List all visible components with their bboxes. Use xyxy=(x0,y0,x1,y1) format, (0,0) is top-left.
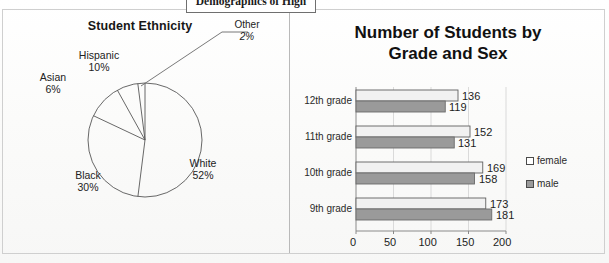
bar-value-10th-male: 158 xyxy=(479,173,497,185)
pie-label-black-pct: 30% xyxy=(77,181,98,193)
bar-value-12th-male: 119 xyxy=(449,101,467,113)
pie-label-black: Black 30% xyxy=(60,169,116,193)
bar-xtick-150: 150 xyxy=(456,236,474,248)
pie-label-white: White 52% xyxy=(177,157,229,181)
bar-category-label-11th: 11th grade xyxy=(290,131,352,142)
pie-label-asian-pct: 6% xyxy=(45,83,60,95)
pie-label-white-name: White xyxy=(177,157,229,169)
bar-category-label-12th: 12th grade xyxy=(290,95,352,106)
pie-label-hispanic: Hispanic 10% xyxy=(68,49,130,73)
pie-label-hispanic-name: Hispanic xyxy=(68,49,130,61)
bar-value-11th-male: 131 xyxy=(458,137,476,149)
legend-label-male: male xyxy=(537,178,559,189)
bar-chart-legend: female male xyxy=(526,155,598,201)
bar-value-9th-male: 181 xyxy=(496,209,514,221)
pie-label-white-pct: 52% xyxy=(192,169,213,181)
figure-page: Demographics of High Student Ethnicity xyxy=(0,0,609,263)
pie-label-other: Other 2% xyxy=(224,19,270,43)
bar-xtick-50: 50 xyxy=(384,236,396,248)
pie-label-black-name: Black xyxy=(60,169,116,181)
pie-chart-panel: Student Ethnicity Hispanic 10% xyxy=(2,9,290,254)
legend-item-female: female xyxy=(526,155,598,166)
legend-swatch-male-icon xyxy=(526,180,534,188)
bar-category-label-10th: 10th grade xyxy=(290,167,352,178)
pie-label-asian-name: Asian xyxy=(30,71,76,83)
legend-swatch-female-icon xyxy=(526,157,534,165)
pie-label-hispanic-pct: 10% xyxy=(88,61,109,73)
pie-label-other-pct: 2% xyxy=(240,31,254,42)
bar-xtick-0: 0 xyxy=(350,236,356,248)
pie-chart-graphic xyxy=(2,9,290,254)
bar-xtick-100: 100 xyxy=(419,236,437,248)
legend-label-female: female xyxy=(537,155,567,166)
document-heading-banner: Demographics of High xyxy=(186,0,316,13)
pie-label-other-name: Other xyxy=(224,19,270,31)
legend-item-male: male xyxy=(526,178,598,189)
pie-label-asian: Asian 6% xyxy=(30,71,76,95)
bar-category-label-9th: 9th grade xyxy=(290,203,352,214)
document-heading-text: Demographics of High xyxy=(187,0,315,12)
bar-value-11th-female: 152 xyxy=(474,126,492,138)
bar-chart-panel: Number of Students by Grade and Sex xyxy=(290,9,605,254)
bar-xtick-200: 200 xyxy=(493,236,511,248)
